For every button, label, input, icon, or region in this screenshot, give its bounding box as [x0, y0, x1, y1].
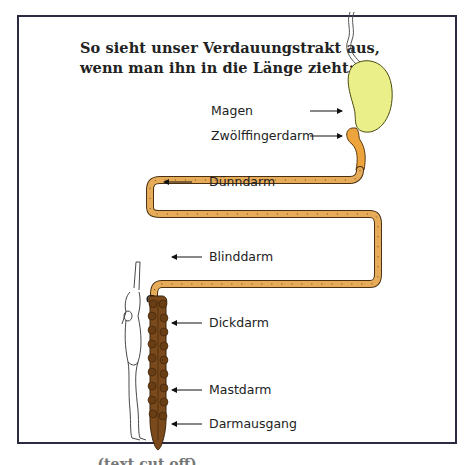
label-dickdarm: Dickdarm	[209, 316, 269, 330]
esophagus-icon	[347, 12, 360, 64]
duodenum-icon	[347, 128, 365, 170]
clipped-caption-text: … … … … (text cut off)	[22, 455, 197, 465]
small-intestine-icon	[150, 170, 378, 300]
large-intestine-icon	[148, 296, 168, 450]
label-mastdarm: Mastdarm	[209, 383, 272, 397]
label-darmausgang: Darmausgang	[209, 417, 297, 431]
label-duenndarm: Dünndarm	[209, 175, 275, 189]
label-arrows	[164, 111, 342, 424]
label-zwoelffingerdarm: Zwölffingerdarm	[211, 129, 314, 143]
label-magen: Magen	[211, 104, 253, 118]
stomach-icon	[348, 61, 392, 132]
human-figure-icon	[122, 262, 146, 440]
label-blinddarm: Blinddarm	[209, 250, 273, 264]
